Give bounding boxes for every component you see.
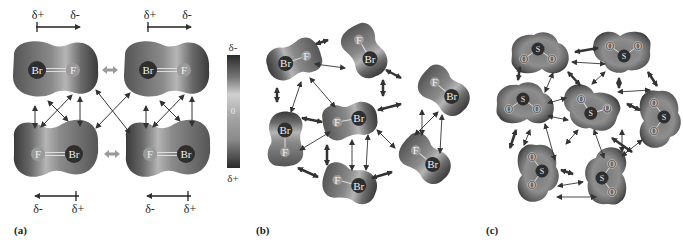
svg-text:Br: Br (181, 148, 192, 160)
s-label: S (540, 167, 544, 176)
f-label: F (303, 50, 309, 62)
interaction-arrow (561, 170, 573, 174)
interaction-arrow (548, 116, 568, 120)
br-label: Br (446, 90, 457, 102)
s-label: S (521, 95, 525, 104)
f-label: F (432, 76, 438, 88)
interaction-arrow (372, 172, 392, 178)
svg-text:Br: Br (32, 64, 43, 76)
o-label: O (521, 55, 527, 64)
o-label: O (534, 105, 540, 114)
o-label: O (529, 181, 535, 190)
dipole-arrow-top-left: δ+ δ- (32, 8, 80, 32)
delta-plus-label: δ+ (184, 202, 197, 216)
interaction-arrow (566, 130, 578, 144)
s-label: S (600, 174, 604, 183)
o-label: O (635, 42, 641, 51)
interaction-arrow (298, 168, 318, 177)
dipole-arrow-top-right: δ+ δ- (144, 8, 192, 32)
interaction-arrow (300, 132, 330, 150)
dipole-arrow-bottom-left: δ- δ+ (33, 191, 84, 216)
br-label: Br (353, 180, 364, 192)
panel-label-b: (b) (256, 224, 270, 237)
svg-text:F: F (35, 148, 41, 160)
o-label: O (609, 188, 615, 197)
brf-molecule: Br F (124, 41, 209, 96)
o-label: O (549, 55, 555, 64)
interaction-arrow (627, 104, 640, 110)
interaction-arrow (558, 182, 583, 186)
brf-molecule: F Br (126, 120, 210, 177)
panel-b: BrFBrFBrFBrFBrFBrFBrF (262, 19, 477, 208)
interaction-arrow (378, 104, 401, 110)
s-label: S (622, 52, 626, 61)
s-label: S (662, 113, 666, 122)
so2-molecule: SOO (585, 147, 626, 204)
brf-molecule: BrF (336, 19, 394, 84)
delta-plus-label: δ+ (32, 8, 45, 22)
so2-molecule: SOO (497, 82, 554, 123)
interaction-arrow (545, 73, 553, 92)
interaction-arrow (386, 70, 401, 78)
interaction-arrow (618, 90, 650, 92)
o-label: O (529, 153, 535, 162)
o-label: O (651, 127, 657, 136)
o-label: O (605, 104, 611, 113)
panel-label-a: (a) (14, 224, 27, 237)
interaction-arrow (648, 72, 657, 86)
o-label: O (578, 95, 584, 104)
scale-middle-label: 0 (231, 106, 236, 116)
s-label: S (589, 109, 593, 118)
o-label: O (506, 105, 512, 114)
interaction-arrow (572, 62, 605, 64)
so2-molecule: SOO (593, 32, 650, 73)
brf-molecule: BrF (320, 98, 380, 143)
interaction-arrow (377, 130, 395, 148)
f-label: F (334, 116, 340, 128)
panel-label-c: (c) (486, 224, 499, 237)
brf-molecule: BrF (268, 112, 304, 167)
o-label: O (651, 99, 657, 108)
interaction-arrow (440, 115, 442, 153)
f-label: F (413, 144, 419, 156)
delta-minus-label: δ- (182, 8, 192, 22)
panel-c: SOOSOOSOOSOOSOOSOOSOO (497, 32, 681, 205)
interaction-arrow (592, 72, 605, 84)
dipole-arrow-bottom-right: δ- δ+ (145, 191, 196, 216)
interaction-arrow (316, 40, 328, 44)
delta-minus-label: δ- (145, 202, 155, 216)
interaction-arrow (568, 72, 580, 85)
scale-bottom-label: δ+ (227, 172, 238, 184)
interaction-arrow (310, 78, 335, 107)
delta-minus-label: δ- (33, 202, 43, 216)
brf-molecule: F Br (14, 120, 98, 177)
svg-text:Br: Br (143, 64, 154, 76)
interaction-arrow (291, 82, 301, 112)
brf-molecule: Br F (13, 41, 98, 96)
br-label: Br (427, 158, 438, 170)
color-scale: δ- 0 δ+ (227, 41, 240, 184)
figure-canvas: δ+ δ- δ+ δ- Br F Br F (0, 0, 683, 242)
br-label: Br (280, 57, 291, 69)
br-label: Br (353, 112, 364, 124)
svg-text:F: F (147, 148, 153, 160)
brf-molecule: BrF (262, 34, 326, 86)
br-label: Br (365, 53, 376, 65)
interaction-arrow (510, 130, 516, 148)
so2-molecule: SOO (556, 80, 624, 138)
interaction-arrow (524, 130, 530, 145)
s-label: S (536, 45, 540, 54)
scale-top-label: δ- (229, 41, 238, 53)
delta-plus-label: δ+ (72, 202, 85, 216)
svg-text:F: F (181, 64, 187, 76)
delta-minus-label: δ- (70, 8, 80, 22)
brf-molecule: BrF (319, 159, 381, 208)
o-label: O (607, 42, 613, 51)
svg-text:Br: Br (69, 148, 80, 160)
f-label: F (282, 146, 288, 158)
interaction-arrow (415, 112, 438, 135)
delta-plus-label: δ+ (144, 8, 157, 22)
panel-a: δ+ δ- δ+ δ- Br F Br F (13, 8, 210, 237)
f-label: F (334, 174, 340, 186)
svg-text:F: F (70, 64, 76, 76)
